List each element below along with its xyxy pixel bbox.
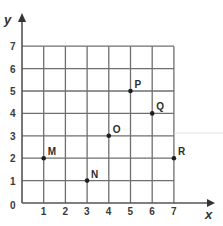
x-tick-label: 1: [41, 206, 47, 217]
y-tick-label: 1: [10, 176, 16, 187]
y-tick-label: 7: [10, 41, 16, 52]
x-axis-arrow-icon: [207, 199, 215, 207]
x-tick-label: 2: [62, 206, 68, 217]
x-tick-label: 7: [171, 206, 177, 217]
point-marker-icon: [41, 156, 46, 161]
y-tick-labels: 1234567: [10, 41, 16, 186]
x-tick-label: 3: [84, 206, 90, 217]
y-tick-label: 2: [10, 153, 16, 164]
point-marker-icon: [85, 178, 90, 183]
x-axis-label: x: [204, 207, 213, 222]
point-label: Q: [156, 101, 164, 112]
y-axis-label: y: [3, 12, 12, 27]
x-tick-label: 4: [106, 206, 112, 217]
point-marker-icon: [107, 134, 112, 139]
origin-label: 0: [10, 200, 16, 211]
point-label: O: [113, 124, 121, 135]
x-tick-labels: 1234567: [41, 206, 177, 217]
point-label: N: [91, 169, 98, 180]
x-tick-label: 6: [149, 206, 155, 217]
x-tick-label: 5: [128, 206, 134, 217]
y-tick-label: 6: [10, 64, 16, 75]
point-label: R: [178, 146, 186, 157]
y-tick-label: 3: [10, 131, 16, 142]
plotted-points: MNOPQR: [41, 79, 186, 183]
point-label: M: [48, 146, 56, 157]
y-tick-label: 4: [10, 108, 16, 119]
point-marker-icon: [172, 156, 177, 161]
point-marker-icon: [128, 89, 133, 94]
coordinate-grid: y x 0 1234567 1234567 MNOPQR: [0, 0, 223, 226]
point-label: P: [135, 79, 142, 90]
y-axis-arrow-icon: [18, 13, 26, 22]
y-tick-label: 5: [10, 86, 16, 97]
point-marker-icon: [150, 111, 155, 116]
